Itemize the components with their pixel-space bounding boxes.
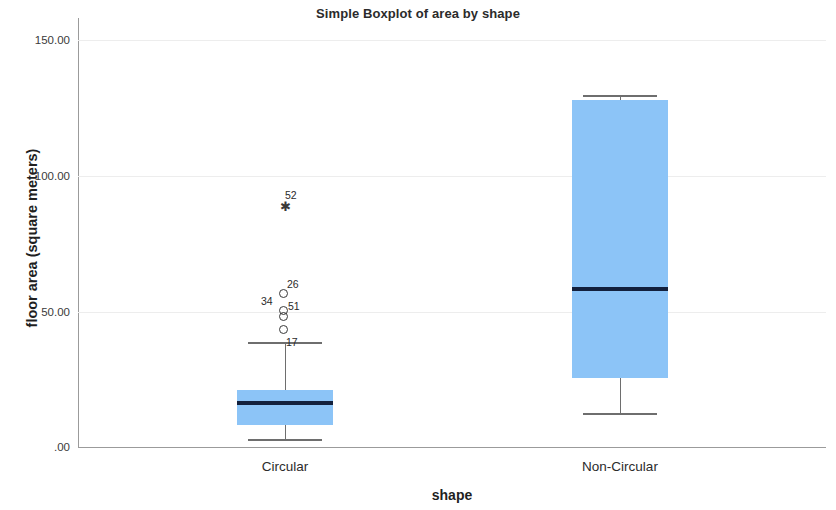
noncircular-median-line — [572, 287, 668, 291]
outlier-marker-17 — [279, 325, 288, 334]
y-axis-title: floor area (square meters) — [24, 108, 40, 368]
noncircular-lower-whisker-cap — [583, 413, 657, 415]
outlier-label-52: 52 — [285, 189, 297, 201]
gridline-150 — [78, 40, 826, 41]
circular-lower-whisker-cap — [248, 439, 322, 441]
x-tick-label-non-circular: Non-Circular — [520, 459, 720, 474]
outlier-label-34: 34 — [261, 295, 273, 307]
y-tick-label-100: 100.00 — [4, 170, 70, 182]
noncircular-lower-whisker-stem — [620, 378, 621, 414]
circular-median-line — [237, 401, 333, 405]
outlier-marker-52: ✱ — [279, 202, 291, 211]
outlier-marker-51 — [279, 312, 288, 321]
circular-lower-whisker-stem — [285, 425, 286, 440]
outlier-label-26: 26 — [287, 278, 299, 290]
noncircular-box — [572, 100, 668, 378]
x-axis-title: shape — [78, 487, 826, 503]
plot-area — [78, 18, 826, 447]
outlier-marker-26 — [279, 289, 288, 298]
outlier-label-17: 17 — [286, 336, 298, 348]
circular-box — [237, 390, 333, 425]
x-tick-label-circular: Circular — [185, 459, 385, 474]
y-tick-label-150: 150.00 — [4, 34, 70, 46]
gridline-100 — [78, 176, 826, 177]
gridline-50 — [78, 312, 826, 313]
boxplot-chart: Simple Boxplot of area by shape floor ar… — [0, 0, 836, 510]
outlier-label-51: 51 — [288, 300, 300, 312]
y-tick-label-50: 50.00 — [4, 306, 70, 318]
x-axis-line — [78, 447, 826, 448]
y-tick-label-0: .00 — [4, 441, 70, 453]
circular-upper-whisker-stem — [285, 343, 286, 390]
